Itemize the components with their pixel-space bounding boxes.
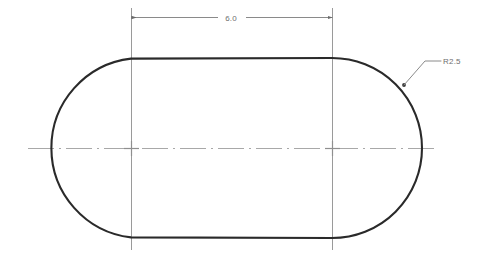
drawing-canvas: 6.0 R2.5: [0, 0, 481, 260]
dimension-label-length: 6.0: [225, 14, 237, 23]
right-arc-center-mark: [325, 141, 340, 156]
left-arc-center-mark: [124, 141, 139, 156]
dimension-label-radius: R2.5: [443, 57, 461, 66]
dimension-corner-radius: R2.5: [402, 57, 461, 87]
dimension-overall-length: 6.0: [132, 14, 333, 23]
slot-drawing-svg: 6.0 R2.5: [0, 0, 481, 260]
leader-line: [404, 61, 441, 85]
extension-lines-group: [132, 8, 333, 250]
